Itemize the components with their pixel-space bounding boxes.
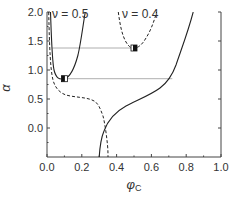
curve-nu-0.5-branch	[99, 12, 193, 157]
y-tick-labels: 0.0 0.5 1.0 1.5 2.0	[28, 6, 43, 134]
axes	[47, 12, 221, 157]
y-tick-2.0: 2.0	[28, 6, 43, 18]
marker-upper	[131, 45, 137, 51]
curve-nu-0.5-u	[51, 12, 86, 79]
y-tick-0.5: 0.5	[28, 93, 43, 105]
x-tick-0.2: 0.2	[74, 161, 89, 173]
y-tick-1.5: 1.5	[28, 35, 43, 47]
y-tick-1.0: 1.0	[28, 64, 43, 76]
x-tick-0: 0.0	[39, 161, 54, 173]
x-tick-1.0: 1.0	[213, 161, 228, 173]
x-tick-labels: 0.0 0.2 0.4 0.6 0.8 1.0	[39, 161, 228, 173]
y-tick-0.0: 0.0	[28, 122, 43, 134]
phase-diagram-chart: 0.0 0.2 0.4 0.6 0.8 1.0 0.0 0.5 1.0 1.5 …	[0, 0, 239, 198]
y-axis-label: α	[0, 84, 13, 92]
annotation-nu-0.5: ν = 0.5	[52, 7, 89, 21]
x-tick-0.6: 0.6	[144, 161, 159, 173]
curve-nu-0.4-branch	[49, 12, 108, 157]
x-tick-0.8: 0.8	[179, 161, 194, 173]
x-axis-label: φC	[127, 177, 142, 193]
x-tick-0.4: 0.4	[109, 161, 124, 173]
marker-lower	[61, 76, 67, 82]
annotation-nu-0.4: ν = 0.4	[122, 7, 159, 21]
